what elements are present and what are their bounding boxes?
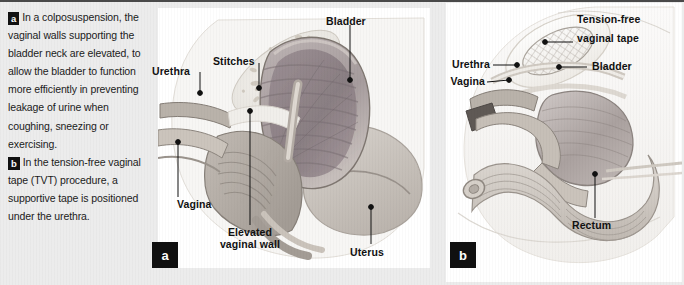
top-rule [0, 0, 684, 2]
label-rectum-b: Rectum [572, 219, 611, 231]
label-vagina-a: Vagina [177, 198, 211, 210]
panel-badge-b: b [450, 242, 476, 268]
illustration-panel-a [158, 8, 430, 268]
label-bladder-b: Bladder [592, 60, 632, 72]
label-urethra-b: Urethra [435, 58, 490, 70]
caption-paragraph-a: aIn a colposuspension, the vaginal walls… [8, 8, 148, 153]
label-tension-free-vaginal-tape-b: Tension-free vaginal tape [577, 10, 677, 48]
caption-text-a: In a colposuspension, the vaginal walls … [8, 11, 141, 150]
label-stitches-a: Stitches [213, 55, 255, 67]
caption-paragraph-b: bIn the tension-free vaginal tape (TVT) … [8, 153, 148, 225]
label-tension-free-line1: Tension-free [577, 13, 640, 25]
label-elevated-vaginal-wall-a: Elevated vaginal wall [207, 226, 293, 250]
label-tension-free-line2: vaginal tape [577, 32, 639, 44]
label-urethra-a: Urethra [152, 65, 190, 77]
label-elevated-line1: Elevated [228, 226, 272, 238]
panel-a-artwork [158, 8, 430, 268]
caption-badge-b: b [8, 157, 20, 170]
figure-root: aIn a colposuspension, the vaginal walls… [0, 0, 684, 285]
panel-badge-a: a [152, 242, 178, 268]
label-vagina-b: Vagina [435, 75, 485, 87]
caption-text-b: In the tension-free vaginal tape (TVT) p… [8, 156, 141, 222]
label-elevated-line2: vaginal wall [220, 238, 280, 250]
caption-badge-a: a [8, 12, 19, 25]
label-uterus-a: Uterus [350, 246, 384, 258]
label-bladder-a: Bladder [326, 15, 366, 27]
figure-caption: aIn a colposuspension, the vaginal walls… [8, 8, 148, 225]
